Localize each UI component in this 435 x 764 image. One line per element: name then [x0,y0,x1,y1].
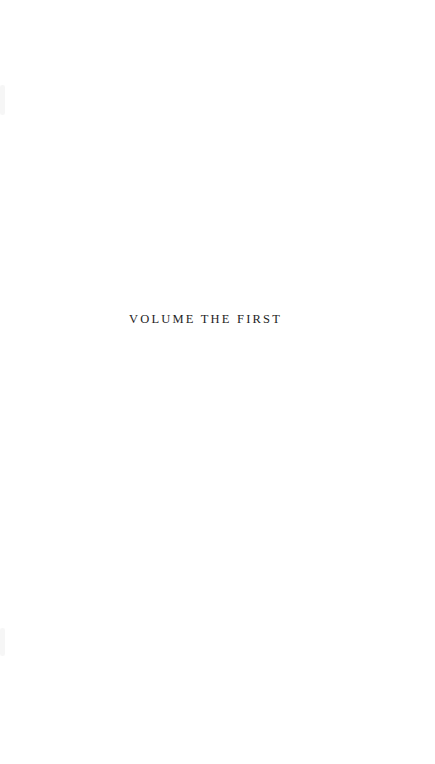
scan-edge-mark [0,628,5,656]
scan-edge-mark [0,85,5,115]
volume-title: VOLUME THE FIRST [129,311,285,327]
book-page: VOLUME THE FIRST [0,0,435,764]
